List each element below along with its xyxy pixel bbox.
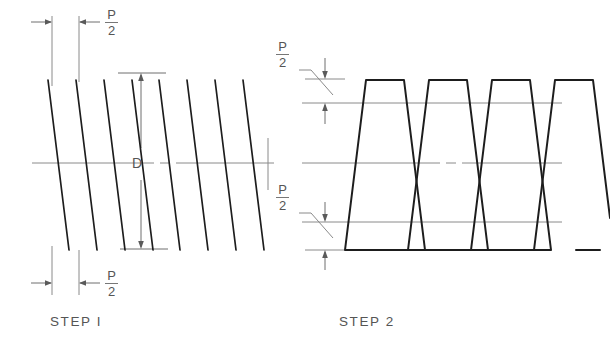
p-numerator: P: [276, 40, 289, 53]
step1-thread-line: [187, 80, 208, 250]
p-numerator: P: [105, 8, 118, 21]
step1-title: STEP I: [50, 314, 102, 329]
step2-thread-profile: [471, 80, 551, 250]
step1-thread-line: [159, 80, 180, 250]
step2-thread-profile: [534, 80, 610, 250]
step1-top-p2-label: P 2: [105, 8, 118, 37]
p-denominator: 2: [276, 56, 289, 69]
step1-thread-line: [104, 80, 125, 250]
p-denominator: 2: [105, 285, 118, 298]
step1-thread-line: [215, 80, 236, 250]
step1-bottom-dim-arrow-right: [79, 280, 100, 286]
step2-thread-profiles: [345, 80, 610, 250]
step1-thread-lines: [48, 80, 264, 250]
p-numerator: P: [105, 269, 118, 282]
p-denominator: 2: [105, 24, 118, 37]
step1-bottom-p2-label: P 2: [105, 269, 118, 298]
step1-top-dim-arrow-right: [79, 19, 100, 25]
step2-top-dim-arrows: [322, 58, 328, 124]
step1-bottom-dim-arrow-left: [31, 280, 52, 286]
p-numerator: P: [276, 183, 289, 196]
step1-thread-line: [76, 80, 97, 250]
step1-thread-line: [243, 80, 264, 250]
step1-group: [31, 16, 274, 295]
step2-bottom-dim-arrows: [322, 202, 328, 270]
step2-thread-profile: [345, 80, 425, 250]
step2-title: STEP 2: [339, 314, 395, 329]
step2-top-p2-label: P 2: [276, 40, 289, 69]
step2-group: [299, 58, 610, 270]
step1-thread-line: [48, 80, 69, 250]
thread-cutting-diagram: [0, 0, 610, 348]
step1-top-dim-arrow-left: [31, 19, 52, 25]
step2-bottom-p2-label: P 2: [276, 183, 289, 212]
step2-thread-profile: [408, 80, 488, 250]
p-denominator: 2: [276, 199, 289, 212]
step2-top-leader-line: [311, 70, 333, 95]
major-diameter-label: D: [132, 155, 142, 171]
step2-bottom-leader-line: [311, 213, 333, 238]
